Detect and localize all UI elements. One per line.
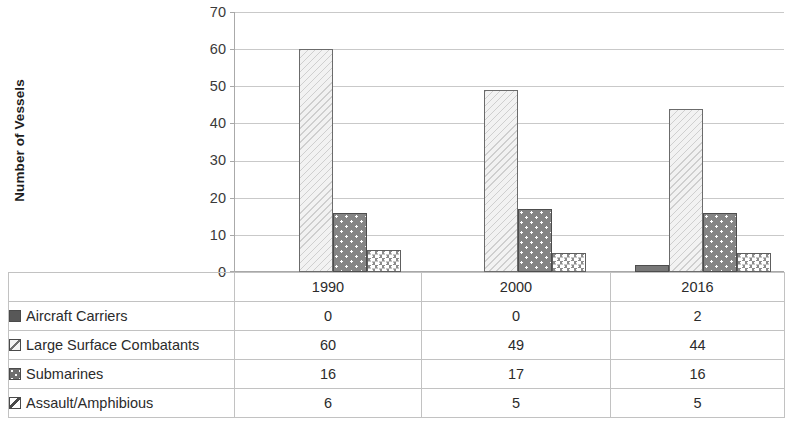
assault-swatch-icon [9,397,21,409]
subs-swatch-icon [9,368,21,380]
legend-item-submarines: Submarines [9,360,235,389]
table-row: Submarines 16 17 16 [9,360,785,389]
cell-submarines-2000: 17 [422,360,611,389]
lsc-swatch-icon [9,339,21,351]
y-tick-50: 50 [180,79,226,94]
cell-large-surface-combatants-2000: 49 [422,331,611,360]
cell-submarines-1990: 16 [235,360,422,389]
table-corner-cell [9,273,235,302]
column-header-2000: 2000 [422,273,611,302]
bar-submarines-2000 [518,209,552,272]
y-tick-60: 60 [180,42,226,57]
cell-assault-amphibious-1990: 6 [235,389,422,418]
bar-group-1990 [265,12,421,272]
bar-group-2016 [635,12,791,272]
cell-aircraft-carriers-2000: 0 [422,302,611,331]
bar-aircraft-carriers-2016 [635,265,669,272]
plot-area [234,12,784,272]
y-tick-10: 10 [180,228,226,243]
table-row: Assault/Amphibious 6 5 5 [9,389,785,418]
column-header-2016: 2016 [611,273,785,302]
table-row: Aircraft Carriers 0 0 2 [9,302,785,331]
cell-assault-amphibious-2000: 5 [422,389,611,418]
bar-submarines-1990 [333,213,367,272]
legend-label: Large Surface Combatants [26,338,199,353]
y-axis-tick-labels: 70 60 50 40 30 20 10 0 [180,0,226,290]
cell-submarines-2016: 16 [611,360,785,389]
cell-aircraft-carriers-2016: 2 [611,302,785,331]
carriers-swatch-icon [9,310,21,322]
chart-data-table: 1990 2000 2016 Aircraft Carriers 0 0 2 L… [8,272,785,418]
bar-large-surface-combatants-2000 [484,90,518,272]
bar-assault-amphibious-1990 [367,250,401,272]
legend-item-aircraft-carriers: Aircraft Carriers [9,302,235,331]
legend-label: Assault/Amphibious [26,396,153,411]
y-tick-30: 30 [180,153,226,168]
cell-large-surface-combatants-2016: 44 [611,331,785,360]
cell-assault-amphibious-2016: 5 [611,389,785,418]
legend-label: Aircraft Carriers [26,309,128,324]
y-tick-70: 70 [180,5,226,20]
bar-large-surface-combatants-2016 [669,109,703,272]
bar-assault-amphibious-2016 [737,253,771,272]
y-tick-40: 40 [180,116,226,131]
legend-label: Submarines [26,367,103,382]
bar-large-surface-combatants-1990 [299,49,333,272]
y-tick-20: 20 [180,191,226,206]
column-header-1990: 1990 [235,273,422,302]
legend-item-assault-amphibious: Assault/Amphibious [9,389,235,418]
legend-item-large-surface-combatants: Large Surface Combatants [9,331,235,360]
table-header-row: 1990 2000 2016 [9,273,785,302]
cell-large-surface-combatants-1990: 60 [235,331,422,360]
chart-plot: 70 60 50 40 30 20 10 0 [0,0,792,290]
bar-group-2000 [450,12,606,272]
bar-assault-amphibious-2000 [552,253,586,272]
bar-submarines-2016 [703,213,737,272]
cell-aircraft-carriers-1990: 0 [235,302,422,331]
table-row: Large Surface Combatants 60 49 44 [9,331,785,360]
